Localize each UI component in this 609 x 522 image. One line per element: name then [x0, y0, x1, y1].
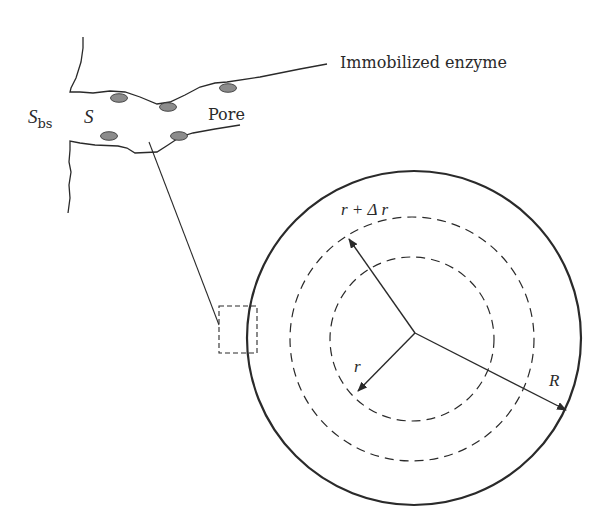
enzyme-dot	[101, 132, 118, 141]
enzyme-dot	[111, 94, 128, 103]
zoom-pointer-line	[149, 142, 219, 325]
enzyme-dot	[160, 103, 177, 112]
shell-outer-dashed-circle	[290, 217, 534, 461]
support-wall-upper-left	[70, 37, 327, 104]
particle-outer-boundary	[247, 171, 581, 505]
enzyme-dot	[171, 132, 188, 141]
substrate-label: S	[84, 106, 94, 127]
particle-radius-label: R	[548, 371, 560, 390]
support-wall-lower-left	[68, 125, 240, 213]
bulk-substrate-label: Sbs	[28, 106, 53, 131]
pore-label: Pore	[208, 105, 245, 124]
inner-radius-label: r	[354, 357, 361, 376]
enzyme-dot	[220, 84, 237, 93]
particle-cross-section: r + Δ r r R	[247, 171, 581, 505]
particle-radius-arrow	[415, 333, 566, 410]
shell-radius-label: r + Δ r	[341, 200, 389, 219]
zoom-region-box	[219, 306, 257, 353]
shell-radius-arrow	[349, 239, 415, 333]
pore-detail: Sbs S Pore Immobilized enzyme	[28, 37, 507, 213]
immobilized-enzyme-label: Immobilized enzyme	[340, 53, 507, 72]
shell-inner-dashed-circle	[330, 257, 494, 421]
pore-diffusion-diagram: Sbs S Pore Immobilized enzyme r + Δ r r …	[0, 0, 609, 522]
inner-radius-arrow	[358, 333, 415, 391]
bulk-substrate-subscript: bs	[38, 116, 53, 131]
